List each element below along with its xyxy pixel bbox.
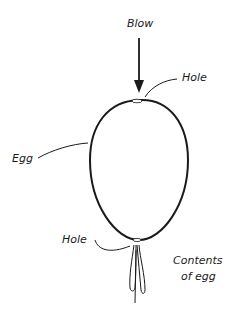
hole-top-label: Hole xyxy=(182,71,207,84)
hole-bottom-leader xyxy=(95,240,130,250)
top-hole xyxy=(132,99,142,103)
egg-label: Egg xyxy=(12,152,33,165)
egg-leader xyxy=(38,143,88,158)
bottom-hole xyxy=(133,238,141,241)
hole-top-leader xyxy=(145,79,177,97)
contents-label-line1: Contents xyxy=(173,254,222,267)
egg-contents-drip xyxy=(130,245,145,303)
egg-outline xyxy=(90,100,188,240)
hole-bottom-label: Hole xyxy=(62,233,87,246)
contents-label-line2: of egg xyxy=(181,270,216,283)
blow-arrow-icon xyxy=(134,38,144,93)
blow-label: Blow xyxy=(127,17,153,30)
